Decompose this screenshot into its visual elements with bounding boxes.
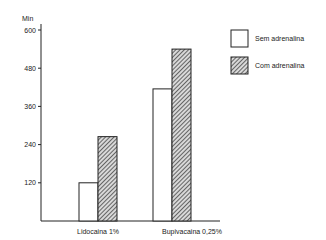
legend-swatch — [231, 57, 248, 74]
y-axis-label: Min — [22, 15, 33, 22]
legend-swatch — [231, 30, 248, 47]
y-tick-label: 360 — [24, 103, 36, 110]
bar-com-adrenalina — [98, 137, 117, 221]
bar-sem-adrenalina — [153, 89, 172, 221]
legend: Sem adrenalinaCom adrenalina — [231, 30, 305, 74]
bar-com-adrenalina — [172, 49, 191, 221]
y-tick-label: 120 — [24, 179, 36, 186]
legend-label: Com adrenalina — [255, 62, 305, 69]
x-tick-label: Lidocaina 1% — [77, 228, 119, 235]
bars — [79, 49, 191, 221]
y-tick-label: 240 — [24, 141, 36, 148]
bar-sem-adrenalina — [79, 183, 98, 221]
legend-label: Sem adrenalina — [255, 35, 304, 42]
bar-chart: Min120240360480600 Lidocaina 1%Bupivacai… — [0, 0, 326, 240]
x-axis-labels: Lidocaina 1%Bupivacaina 0,25% — [77, 228, 222, 236]
y-tick-label: 600 — [24, 27, 36, 34]
y-tick-label: 480 — [24, 65, 36, 72]
x-tick-label: Bupivacaina 0,25% — [162, 228, 222, 236]
